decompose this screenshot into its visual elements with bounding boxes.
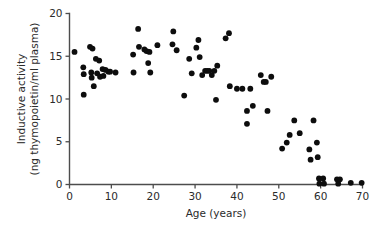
data-point [214,63,220,69]
data-point [88,70,94,76]
y-axis-tick-labels: 05101520 [49,7,62,190]
x-tick-label-40: 40 [230,190,243,202]
data-point [258,72,264,78]
data-point [227,83,233,89]
data-point [81,92,87,98]
x-tick-label-70: 70 [356,190,369,202]
data-point [226,30,232,36]
data-point [244,108,250,114]
data-point [72,49,78,55]
data-point [136,44,142,50]
data-point [284,140,290,146]
data-point [91,83,97,89]
data-point [315,154,321,160]
x-tick-label-0: 0 [66,190,73,202]
data-point [107,69,113,75]
data-point [147,70,153,76]
data-point [308,157,314,163]
data-point [311,117,317,123]
data-point [147,49,153,55]
data-point [193,45,199,51]
data-point [239,86,245,92]
data-point [263,79,269,85]
data-point [291,117,297,123]
y-axis-title-line2: (ng thymopoietin/ml plasma) [28,23,40,176]
data-point [244,121,250,127]
data-point [268,74,274,80]
x-tick-label-50: 50 [272,190,285,202]
chart-canvas: 05101520 010203040506070 Age (years) Ind… [0,0,377,229]
data-point [89,75,95,81]
data-point [287,132,293,138]
data-point [211,68,217,74]
data-point [265,108,271,114]
x-tick-label-60: 60 [314,190,327,202]
data-point [297,130,303,136]
data-point [170,41,176,47]
y-tick-label-15: 15 [49,50,62,62]
data-point [170,29,176,35]
data-point [196,37,202,43]
data-points-layer [72,26,365,187]
data-point [234,86,240,92]
data-point [101,73,107,79]
x-tick-label-30: 30 [188,190,201,202]
data-point [81,71,87,77]
data-point [197,54,203,60]
data-point [247,86,253,92]
y-tick-label-10: 10 [49,93,62,105]
y-tick-label-20: 20 [49,7,62,19]
x-tick-label-20: 20 [147,190,160,202]
data-point [223,35,229,41]
data-point [250,103,256,109]
data-point [306,147,312,153]
data-point [135,26,141,32]
data-point [174,47,180,53]
data-point [321,181,327,187]
data-point [131,70,137,76]
data-point [155,42,161,48]
y-tick-label-0: 0 [56,178,63,190]
data-point [186,56,192,62]
data-point [130,52,136,58]
data-point [320,176,326,182]
y-axis-title-line1: Inductive activity [15,54,27,145]
data-point [181,93,187,99]
data-point [337,176,343,182]
data-point [189,70,195,76]
x-axis-tick-labels: 010203040506070 [66,190,369,202]
y-tick-label-5: 5 [56,135,63,147]
data-point [314,140,320,146]
data-point [90,46,96,52]
data-point [113,70,119,76]
data-point [80,64,86,70]
data-point [213,97,219,103]
data-point [359,180,365,186]
x-axis-title: Age (years) [186,207,247,219]
data-point [348,180,354,186]
scatter-plot-figure: 05101520 010203040506070 Age (years) Ind… [0,0,377,229]
data-point [96,58,102,64]
data-point [145,60,151,66]
data-point [279,146,285,152]
x-tick-label-10: 10 [105,190,118,202]
